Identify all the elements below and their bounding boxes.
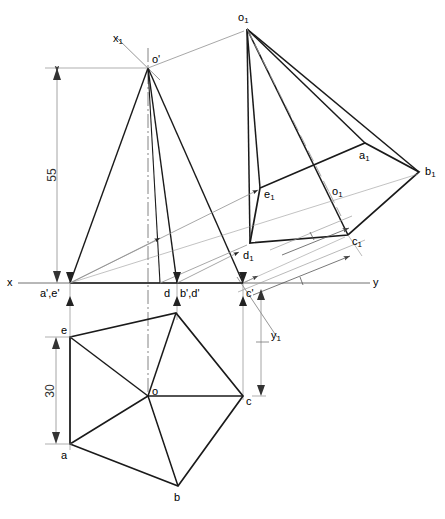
label-o1-center: o1 xyxy=(332,186,343,199)
axis-label-y1: y1 xyxy=(271,330,281,343)
label-o-prime: o' xyxy=(152,54,160,65)
front-view-pyramid xyxy=(70,68,243,283)
label-c: c xyxy=(246,396,252,407)
dimension-cprime-to-c xyxy=(252,289,266,396)
top-view-pentagon xyxy=(70,313,243,486)
label-a1: a1 xyxy=(359,150,370,163)
projection-drawing-svg xyxy=(0,0,445,519)
label-d1: d1 xyxy=(243,250,254,263)
label-b-d-prime: b',d' xyxy=(180,288,200,299)
axis-tick-arrows xyxy=(66,272,247,306)
label-a: a xyxy=(61,450,67,461)
label-e1: e1 xyxy=(264,189,275,202)
label-b1: b1 xyxy=(425,166,436,179)
dimension-value-55: 55 xyxy=(45,163,59,187)
label-a-e-prime: a',e' xyxy=(40,288,60,299)
label-b: b xyxy=(174,492,180,503)
label-o: o xyxy=(152,386,158,397)
label-c-prime: c' xyxy=(246,288,254,299)
axis-label-x: x xyxy=(7,277,13,288)
label-o1-apex: o1 xyxy=(238,12,249,25)
axis-label-x1: x1 xyxy=(113,33,123,46)
label-e: e xyxy=(61,325,67,336)
dimension-value-30: 30 xyxy=(43,379,57,403)
label-c1: c1 xyxy=(352,236,362,249)
projector-lines-vertical xyxy=(70,283,243,450)
technical-drawing-canvas: x y x1 y1 o' a',e' d b',d' c' e a b c o … xyxy=(0,0,445,519)
axis-label-y: y xyxy=(373,277,379,288)
label-d-front: d xyxy=(164,288,170,299)
auxiliary-view-apex-edges xyxy=(247,29,419,243)
dimension-55 xyxy=(45,68,148,283)
